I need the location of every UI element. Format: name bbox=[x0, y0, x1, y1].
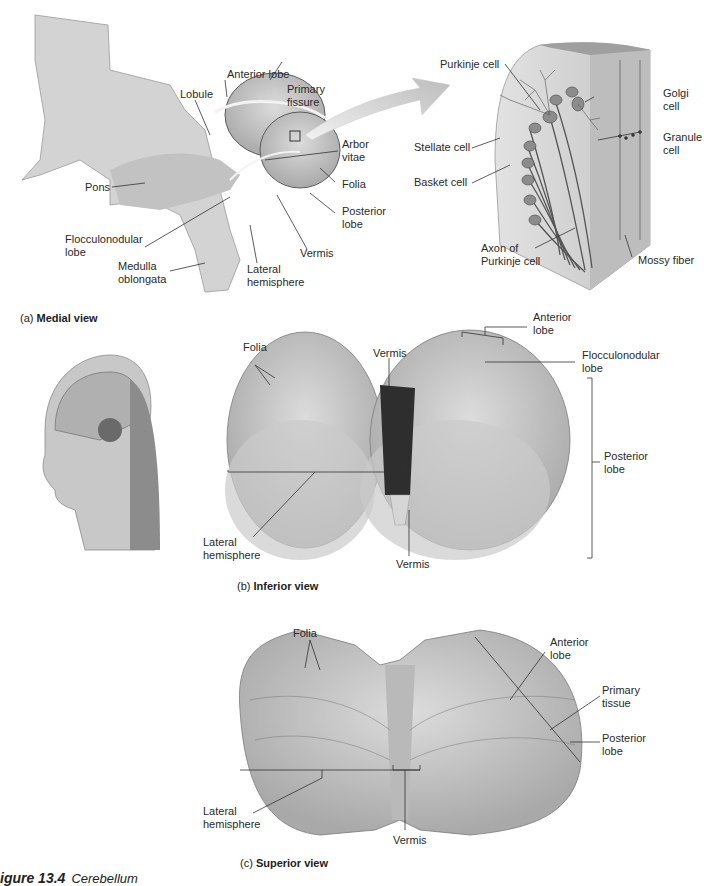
label-vermis: Vermis bbox=[393, 834, 427, 847]
label-vermis-bottom: Vermis bbox=[396, 558, 430, 571]
label-arbor-vitae: Arbor vitae bbox=[342, 138, 369, 164]
caption-letter: (b) bbox=[237, 580, 250, 592]
figure-number: igure 13.4 bbox=[0, 870, 65, 886]
label-anterior-lobe: Anterior lobe bbox=[533, 311, 572, 337]
label-mossy-fiber: Mossy fiber bbox=[638, 254, 694, 267]
label-purkinje-cell: Purkinje cell bbox=[440, 58, 499, 71]
caption-letter: (c) bbox=[240, 857, 253, 869]
label-primary-fissure: Primary fissure bbox=[287, 83, 325, 109]
label-stellate-cell: Stellate cell bbox=[414, 141, 470, 154]
label-flocculonodular-lobe: Flocculonodular lobe bbox=[65, 233, 143, 259]
label-lobule: Lobule bbox=[180, 88, 213, 101]
label-axon-of-purkinje-cell: Axon of Purkinje cell bbox=[481, 242, 540, 268]
caption-medial-view: (a) Medial view bbox=[20, 312, 98, 324]
label-anterior-lobe: Anterior lobe bbox=[227, 68, 289, 81]
label-pons: Pons bbox=[85, 181, 110, 194]
magnify-arrow bbox=[305, 78, 450, 140]
head-profile-illustration bbox=[43, 355, 160, 550]
label-vermis-top: Vermis bbox=[373, 347, 407, 360]
label-folia: Folia bbox=[293, 627, 317, 640]
caption-title: Superior view bbox=[256, 857, 328, 869]
label-golgi-cell: Golgi cell bbox=[663, 87, 689, 113]
superior-view-image bbox=[239, 630, 581, 835]
label-posterior-lobe: Posterior lobe bbox=[604, 450, 648, 476]
figure-caption: igure 13.4Cerebellum bbox=[0, 870, 138, 886]
label-medulla-oblongata: Medulla oblongata bbox=[118, 260, 166, 286]
label-posterior-lobe: Posterior lobe bbox=[602, 732, 646, 758]
label-anterior-lobe: Anterior lobe bbox=[550, 636, 589, 662]
label-folia: Folia bbox=[342, 178, 366, 191]
label-lateral-hemisphere: Lateral hemisphere bbox=[203, 536, 260, 562]
label-lateral-hemisphere: Lateral hemisphere bbox=[247, 263, 304, 289]
caption-superior-view: (c) Superior view bbox=[240, 857, 328, 869]
label-posterior-lobe: Posterior lobe bbox=[342, 205, 386, 231]
inferior-view-image bbox=[225, 330, 570, 560]
label-basket-cell: Basket cell bbox=[414, 176, 467, 189]
label-granule-cell: Granule cell bbox=[663, 131, 702, 157]
label-primary-tissue: Primary tissue bbox=[602, 684, 640, 710]
caption-inferior-view: (b) Inferior view bbox=[237, 580, 318, 592]
caption-title: Medial view bbox=[37, 312, 98, 324]
label-vermis: Vermis bbox=[300, 247, 334, 260]
caption-title: Inferior view bbox=[254, 580, 319, 592]
caption-letter: (a) bbox=[20, 312, 33, 324]
label-flocculonodular-lobe: Flocculonodular lobe bbox=[582, 349, 660, 375]
label-lateral-hemisphere: Lateral hemisphere bbox=[203, 805, 260, 831]
figure-title: Cerebellum bbox=[71, 871, 137, 886]
label-folia: Folia bbox=[243, 341, 267, 354]
